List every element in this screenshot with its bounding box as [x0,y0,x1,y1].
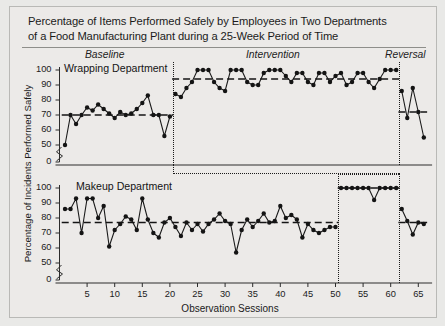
y-tick-label: 100 [30,64,52,74]
data-point [262,71,266,75]
data-point [350,80,354,84]
data-point [328,225,332,229]
data-point [157,113,161,117]
phase-divider [173,62,174,165]
x-tick-label: 15 [132,289,152,299]
data-point [256,83,260,87]
data-point [101,204,105,208]
data-point [234,250,238,254]
x-tick-label: 65 [408,289,428,299]
data-point [107,244,111,248]
data-point [124,113,128,117]
data-point [278,68,282,72]
data-point [366,186,370,190]
data-point [245,217,249,221]
data-point [400,207,404,211]
data-point [212,80,216,84]
data-point [90,196,94,200]
data-point [74,196,78,200]
data-point [79,231,83,235]
data-point [68,113,72,117]
data-point [135,107,139,111]
phase-divider [399,62,400,165]
data-point [289,213,293,217]
data-point [113,228,117,232]
data-point [201,229,205,233]
data-point [63,143,67,147]
data-point [405,219,409,223]
data-point [140,196,144,200]
chart-canvas [0,0,445,326]
data-point [317,231,321,235]
data-point [284,74,288,78]
data-point [317,71,321,75]
data-point [416,110,420,114]
x-tick-label: 40 [270,289,290,299]
phase-divider [399,174,400,283]
data-point [90,108,94,112]
data-point [162,134,166,138]
data-point [96,102,100,106]
data-point [234,68,238,72]
data-point [79,113,83,117]
data-point [101,107,105,111]
data-point [251,83,255,87]
data-point [328,80,332,84]
data-point [355,71,359,75]
data-point [295,71,299,75]
data-point [300,235,304,239]
data-point [361,71,365,75]
data-point [416,220,420,224]
series-makeup [62,186,427,255]
data-point [184,86,188,90]
x-tick-label: 55 [353,289,373,299]
data-point [195,68,199,72]
data-point [228,68,232,72]
data-point [146,93,150,97]
x-tick-label: 25 [188,289,208,299]
data-point [422,135,426,139]
data-point [389,186,393,190]
y-tick-label: 60 [30,124,52,134]
data-point [377,186,381,190]
data-point [168,216,172,220]
data-point [239,228,243,232]
data-point [311,228,315,232]
data-point [217,211,221,215]
data-point [405,116,409,120]
data-point [212,217,216,221]
x-tick-label: 60 [381,289,401,299]
data-point [322,228,326,232]
data-point [333,225,337,229]
y-tick-label: 80 [30,94,52,104]
y-tick-label: 70 [30,227,52,237]
phase-connector-stub [173,165,174,174]
x-tick-label: 30 [215,289,235,299]
y-tick-label: 90 [30,79,52,89]
data-point [85,105,89,109]
phase-connector [338,174,399,175]
data-point [190,80,194,84]
data-point [63,207,67,211]
x-tick-label: 45 [298,289,318,299]
y-tick-label: 50 [30,257,52,267]
data-point [245,80,249,84]
x-tick-label: 50 [326,289,346,299]
data-point [68,207,72,211]
x-tick-label: 20 [160,289,180,299]
data-point [306,80,310,84]
data-point [157,235,161,239]
data-point [113,116,117,120]
data-point [129,217,133,221]
data-point [217,86,221,90]
data-point [74,122,78,126]
y-tick-label: 70 [30,109,52,119]
series-wrapping [62,68,427,147]
data-point [146,217,150,221]
data-point [278,204,282,208]
data-point [295,217,299,221]
data-point [366,80,370,84]
data-point [411,232,415,236]
data-point [383,68,387,72]
phase-divider [338,174,339,283]
